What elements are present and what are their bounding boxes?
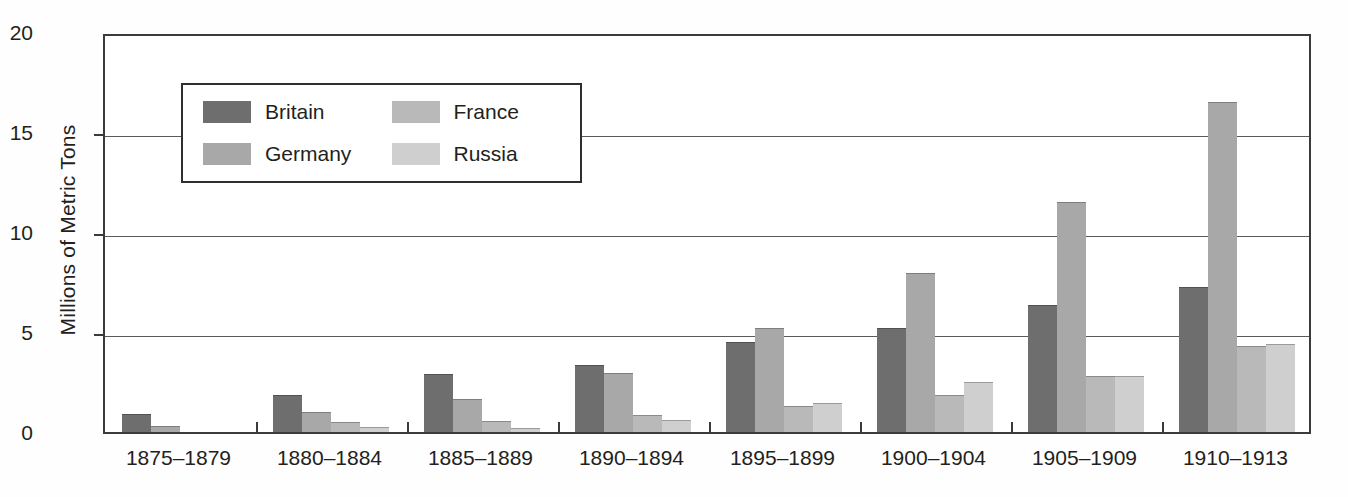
legend-swatch-britain [203, 101, 251, 123]
bar-group-inner [709, 36, 860, 432]
bar-group-inner [1162, 36, 1313, 432]
bar-group [709, 36, 860, 432]
bar-group-inner [1011, 36, 1162, 432]
bar-germany[interactable] [1208, 102, 1237, 432]
x-axis-group-separator [407, 422, 409, 434]
bar-germany[interactable] [755, 328, 784, 432]
bar-group [1162, 36, 1313, 432]
bar-germany[interactable] [906, 273, 935, 432]
legend-label-britain: Britain [265, 100, 325, 124]
legend-item-germany[interactable]: Germany [203, 142, 392, 166]
legend: BritainFranceGermanyRussia [181, 83, 582, 183]
bar-germany[interactable] [302, 412, 331, 432]
x-axis-group-separator [1162, 422, 1164, 434]
x-axis-tick-label: 1910–1913 [1151, 446, 1321, 470]
legend-label-france: France [454, 100, 519, 124]
bar-germany[interactable] [604, 373, 633, 432]
bar-britain[interactable] [877, 328, 906, 432]
x-axis-tick-label: 1905–1909 [1000, 446, 1170, 470]
bar-russia[interactable] [964, 382, 993, 432]
bar-russia[interactable] [662, 420, 691, 432]
y-axis-tick-label: 15 [0, 121, 33, 145]
y-axis-title: Millions of Metric Tons [56, 70, 80, 390]
bar-group [1011, 36, 1162, 432]
bar-france[interactable] [1086, 376, 1115, 432]
bar-britain[interactable] [1028, 305, 1057, 432]
bar-france[interactable] [482, 421, 511, 432]
bar-france[interactable] [935, 395, 964, 432]
y-axis-tick-label: 10 [0, 221, 33, 245]
legend-swatch-france [392, 101, 440, 123]
y-axis-tick-label: 20 [0, 21, 33, 45]
bar-germany[interactable] [1057, 202, 1086, 432]
legend-item-britain[interactable]: Britain [203, 100, 392, 124]
bar-group [860, 36, 1011, 432]
bar-russia[interactable] [813, 403, 842, 432]
bar-russia[interactable] [360, 427, 389, 432]
bar-france[interactable] [633, 415, 662, 432]
x-axis-group-separator [1011, 422, 1013, 434]
x-axis-tick-label: 1875–1879 [94, 446, 264, 470]
bar-france[interactable] [784, 406, 813, 432]
bar-france[interactable] [331, 422, 360, 432]
legend-label-russia: Russia [454, 142, 518, 166]
y-axis-tick-label: 0 [0, 421, 33, 445]
bar-britain[interactable] [273, 395, 302, 432]
bar-russia[interactable] [1266, 344, 1295, 432]
bar-france[interactable] [1237, 346, 1266, 432]
x-axis-group-separator [709, 422, 711, 434]
bar-germany[interactable] [151, 426, 180, 432]
legend-swatch-russia [392, 143, 440, 165]
x-axis-tick-label: 1895–1899 [698, 446, 868, 470]
bar-britain[interactable] [424, 374, 453, 432]
x-axis-tick-label: 1900–1904 [849, 446, 1019, 470]
bar-britain[interactable] [122, 414, 151, 432]
x-axis-group-separator [256, 422, 258, 434]
x-axis-group-separator [860, 422, 862, 434]
steel-production-bar-chart: Millions of Metric Tons 05101520 1875–18… [0, 0, 1348, 497]
bar-germany[interactable] [453, 399, 482, 432]
legend-item-russia[interactable]: Russia [392, 142, 581, 166]
legend-label-germany: Germany [265, 142, 351, 166]
bar-russia[interactable] [1115, 376, 1144, 432]
x-axis-tick-label: 1890–1894 [547, 446, 717, 470]
bar-britain[interactable] [1179, 287, 1208, 432]
legend-swatch-germany [203, 143, 251, 165]
bar-britain[interactable] [575, 365, 604, 432]
x-axis-tick-label: 1885–1889 [396, 446, 566, 470]
x-axis-tick-label: 1880–1884 [245, 446, 415, 470]
y-axis-tick-label: 5 [0, 321, 33, 345]
bar-britain[interactable] [726, 342, 755, 432]
bar-russia[interactable] [511, 428, 540, 432]
legend-item-france[interactable]: France [392, 100, 581, 124]
bar-group-inner [860, 36, 1011, 432]
x-axis-group-separator [558, 422, 560, 434]
